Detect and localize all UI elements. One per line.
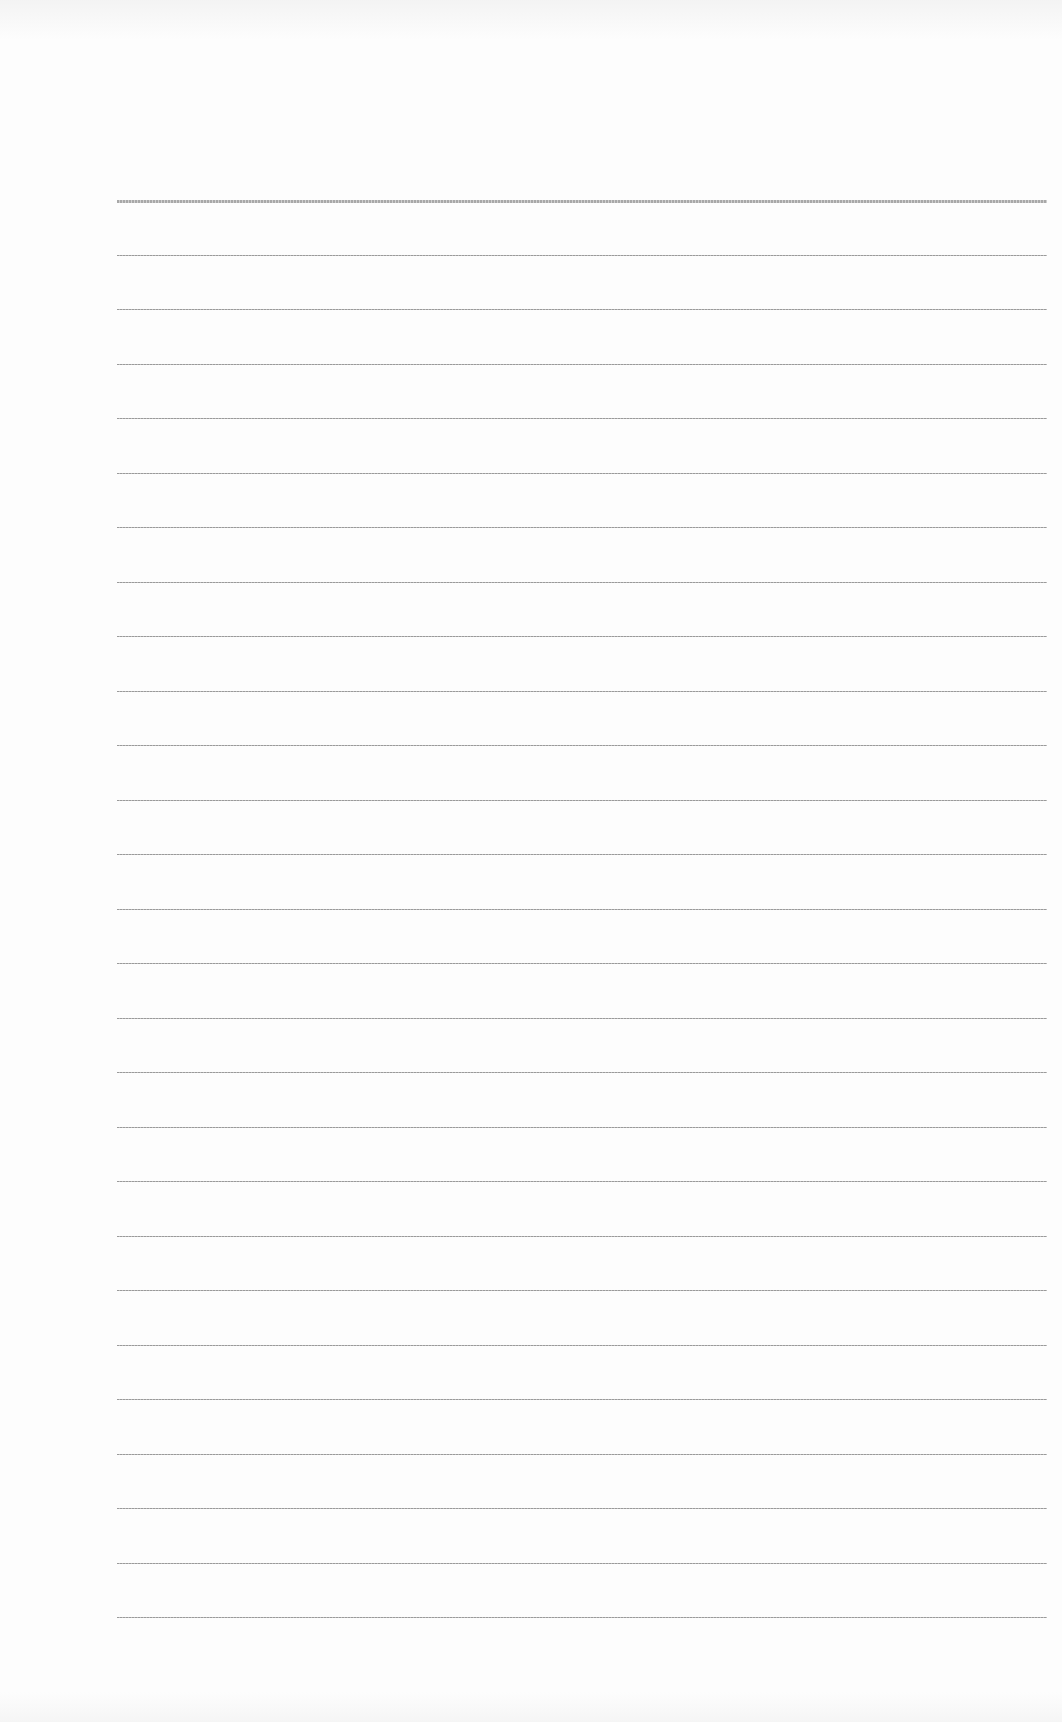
ruled-line	[117, 745, 1047, 746]
ruled-line	[117, 582, 1047, 583]
ruled-line	[117, 1127, 1047, 1128]
ruled-line	[117, 418, 1047, 419]
ruled-line	[117, 963, 1047, 964]
ruled-line	[117, 1181, 1047, 1182]
ruled-line	[117, 800, 1047, 801]
ruled-line	[117, 1617, 1047, 1618]
ruled-line	[117, 1454, 1047, 1455]
ruled-line	[117, 1508, 1047, 1509]
ruled-line	[117, 691, 1047, 692]
ruled-line	[117, 364, 1047, 365]
lined-paper-sheet	[0, 0, 1062, 1722]
ruled-line	[117, 1345, 1047, 1346]
ruled-line	[117, 636, 1047, 637]
ruled-line	[117, 854, 1047, 855]
ruled-line	[117, 1399, 1047, 1400]
ruled-line	[117, 309, 1047, 310]
ruled-line	[117, 1236, 1047, 1237]
ruled-line	[117, 200, 1047, 203]
ruled-line	[117, 1290, 1047, 1291]
ruled-line	[117, 527, 1047, 528]
bottom-bleed-through	[0, 1692, 1062, 1722]
ruled-line	[117, 1563, 1047, 1564]
ruled-line	[117, 1018, 1047, 1019]
ruled-line	[117, 255, 1047, 256]
ruled-line	[117, 909, 1047, 910]
ruled-line	[117, 473, 1047, 474]
ruled-line	[117, 1072, 1047, 1073]
